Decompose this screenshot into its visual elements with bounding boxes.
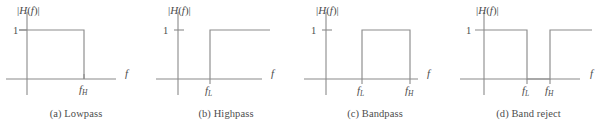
xtick-label-fh: fH <box>79 83 88 97</box>
xtick-label-fl: fL <box>522 84 529 98</box>
y-axis-label: |H(f)| <box>316 4 339 17</box>
response-curve <box>19 30 84 79</box>
xtick-label-fh: fH <box>405 84 414 98</box>
response-curve <box>475 30 592 79</box>
xtick-label-fl: fL <box>205 84 212 98</box>
panel-band-reject: |H(f)| 1 fL fH f (d) Band reject <box>450 0 607 131</box>
ytick-label-one: 1 <box>163 25 168 36</box>
caption-bandpass: (c) Bandpass <box>300 108 450 119</box>
plot-lowpass: |H(f)| 1 fH f <box>0 0 152 104</box>
y-axis-label: |H(f)| <box>168 4 191 17</box>
filter-response-figure: |H(f)| 1 fH f (a) Lowpass |H(f)| 1 fL <box>0 0 607 131</box>
ytick-label-one: 1 <box>13 25 18 36</box>
caption-lowpass: (a) Lowpass <box>0 108 152 119</box>
response-curve <box>362 30 410 79</box>
response-curve <box>210 30 270 79</box>
panel-highpass: |H(f)| 1 fL f (b) Highpass <box>152 0 300 131</box>
plot-band-reject: |H(f)| 1 fL fH f <box>450 0 607 104</box>
caption-highpass: (b) Highpass <box>152 108 300 119</box>
ytick-label-one: 1 <box>311 25 316 36</box>
x-axis-label: f <box>125 67 130 79</box>
x-axis-label: f <box>590 67 595 79</box>
xtick-label-fh: fH <box>545 84 554 98</box>
panel-lowpass: |H(f)| 1 fH f (a) Lowpass <box>0 0 152 131</box>
plot-bandpass: |H(f)| 1 fL fH f <box>300 0 450 104</box>
ytick-label-one: 1 <box>466 25 471 36</box>
xtick-label-fl: fL <box>357 84 364 98</box>
caption-band-reject: (d) Band reject <box>450 108 607 119</box>
x-axis-label: f <box>427 67 432 79</box>
x-axis-label: f <box>271 67 276 79</box>
y-axis-label: |H(f)| <box>17 4 40 17</box>
plot-highpass: |H(f)| 1 fL f <box>152 0 300 104</box>
y-axis-label: |H(f)| <box>476 4 499 17</box>
panel-bandpass: |H(f)| 1 fL fH f (c) Bandpass <box>300 0 450 131</box>
